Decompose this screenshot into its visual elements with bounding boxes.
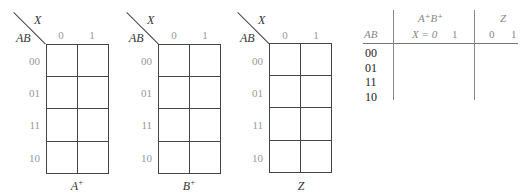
col-header-z1: 1 xyxy=(511,28,517,40)
table-row-label: 00 xyxy=(365,46,377,61)
col-header-z0: 0 xyxy=(489,28,495,40)
group-header-next-state: A⁺B⁺ xyxy=(418,12,443,25)
table-row-label: 10 xyxy=(365,90,377,105)
table-row-label: 01 xyxy=(365,61,377,76)
state-table: A⁺B⁺ Z AB X = 0 1 0 1 00 01 11 10 xyxy=(0,0,530,196)
table-divider xyxy=(393,10,394,100)
table-divider xyxy=(474,10,475,100)
col-header-x1: 1 xyxy=(452,28,458,40)
group-header-output: Z xyxy=(500,12,506,24)
table-row-label: 11 xyxy=(365,75,377,90)
col-header-x0: X = 0 xyxy=(412,28,437,40)
row-header-ab: AB xyxy=(364,28,377,40)
table-header-rule xyxy=(363,43,518,44)
